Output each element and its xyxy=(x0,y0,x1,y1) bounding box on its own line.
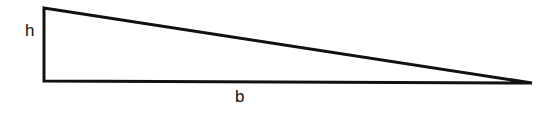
diagram-canvas: h b xyxy=(0,0,550,113)
height-label: h xyxy=(25,22,34,39)
base-label: b xyxy=(235,88,244,105)
triangle-figure xyxy=(0,0,550,113)
triangle-outline xyxy=(44,8,532,83)
